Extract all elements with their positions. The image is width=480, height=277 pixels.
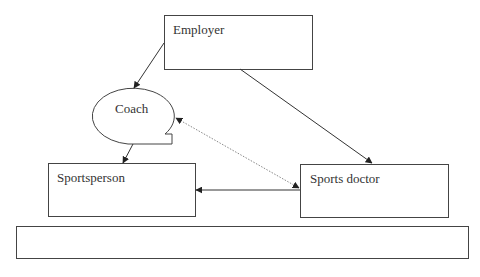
relationship-diagram	[0, 0, 480, 277]
sportsperson-label: Sportsperson	[57, 171, 125, 184]
coach-shape	[92, 88, 174, 144]
arrow-employer-to-sports-doctor	[240, 69, 372, 163]
sports-doctor-label: Sports doctor	[310, 172, 380, 185]
arrow-coach-to-sportsperson	[123, 144, 133, 163]
arrow-employer-to-coach	[134, 43, 164, 88]
coach-label: Coach	[115, 102, 148, 115]
employer-label: Employer	[173, 23, 224, 36]
bottom-bar-box	[17, 227, 469, 259]
